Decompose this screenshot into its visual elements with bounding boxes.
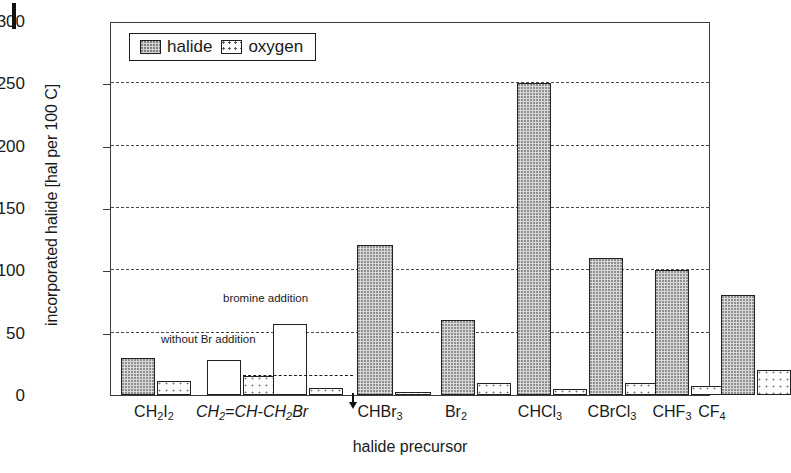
bar-oxygen-ch2=ch-ch2br-2 [309, 388, 343, 395]
bar-oxygen-chbr3-3 [395, 392, 431, 395]
bar-halide-chbr3-3 [357, 245, 393, 395]
y-axis-title: incorporated halide [hal per 100 C] [43, 25, 61, 385]
bar-oxygen-chcl3-5 [553, 389, 587, 395]
legend-entry-halide: halide [140, 38, 212, 55]
bar-halide-chf3-7 [655, 270, 689, 395]
bar-halide-br2-4 [441, 320, 475, 395]
annotation-bromine-addition: bromine addition [223, 292, 308, 304]
y-tick-label-250: 250 [0, 75, 25, 92]
legend-swatch-oxygen-icon [221, 40, 242, 54]
y-tick-label-300: 300 [0, 13, 25, 30]
y-tick-label-200: 200 [0, 138, 25, 155]
x-category-label-cf4: CF4 [677, 402, 747, 423]
bar-oxygen-chf3-7 [691, 386, 725, 395]
annotation-reference-line [243, 375, 353, 376]
bar-halide-chcl3-5 [517, 83, 551, 395]
x-category-label-chbr3: CHBr3 [335, 402, 425, 423]
bar-halide-cbrcl3-6 [589, 258, 623, 395]
bar-halide-cf4-8 [721, 295, 755, 395]
bar-oxygen-ch2i2-0 [157, 381, 191, 395]
gridline-250 [111, 82, 709, 83]
x-category-label-br2: Br2 [421, 402, 491, 423]
bar-oxygen-br2-4 [477, 383, 511, 395]
bar-halide-ch2i2-0 [121, 358, 155, 395]
legend-swatch-halide-icon [140, 40, 161, 54]
annotation-without-br-addition: without Br addition [161, 333, 256, 345]
bar-halide-ch2=ch-ch2br-1 [207, 360, 241, 395]
bar-oxygen-cf4-8 [757, 370, 791, 395]
y-tick-label-50: 50 [0, 325, 25, 342]
gridline-150 [111, 207, 709, 208]
legend-entry-oxygen: oxygen [221, 38, 303, 55]
bar-oxygen-ch2=ch-ch2br-1 [243, 376, 277, 395]
y-tick-label-0: 0 [0, 387, 25, 404]
y-tick-label-100: 100 [0, 262, 25, 279]
bar-oxygen-cbrcl3-6 [625, 383, 659, 395]
legend: halide oxygen [129, 33, 316, 61]
bar-halide-ch2=ch-ch2br-2 [273, 324, 307, 395]
gridline-200 [111, 145, 709, 146]
plot-area: bromine additionwithout Br addition hali… [110, 22, 710, 396]
legend-label-oxygen: oxygen [248, 38, 303, 55]
x-axis-title: halide precursor [110, 438, 710, 456]
x-category-label-ch2=ch-ch2br: CH2=CH-CH2Br [177, 402, 327, 423]
legend-label-halide: halide [167, 38, 212, 55]
y-tick-label-150: 150 [0, 200, 25, 217]
